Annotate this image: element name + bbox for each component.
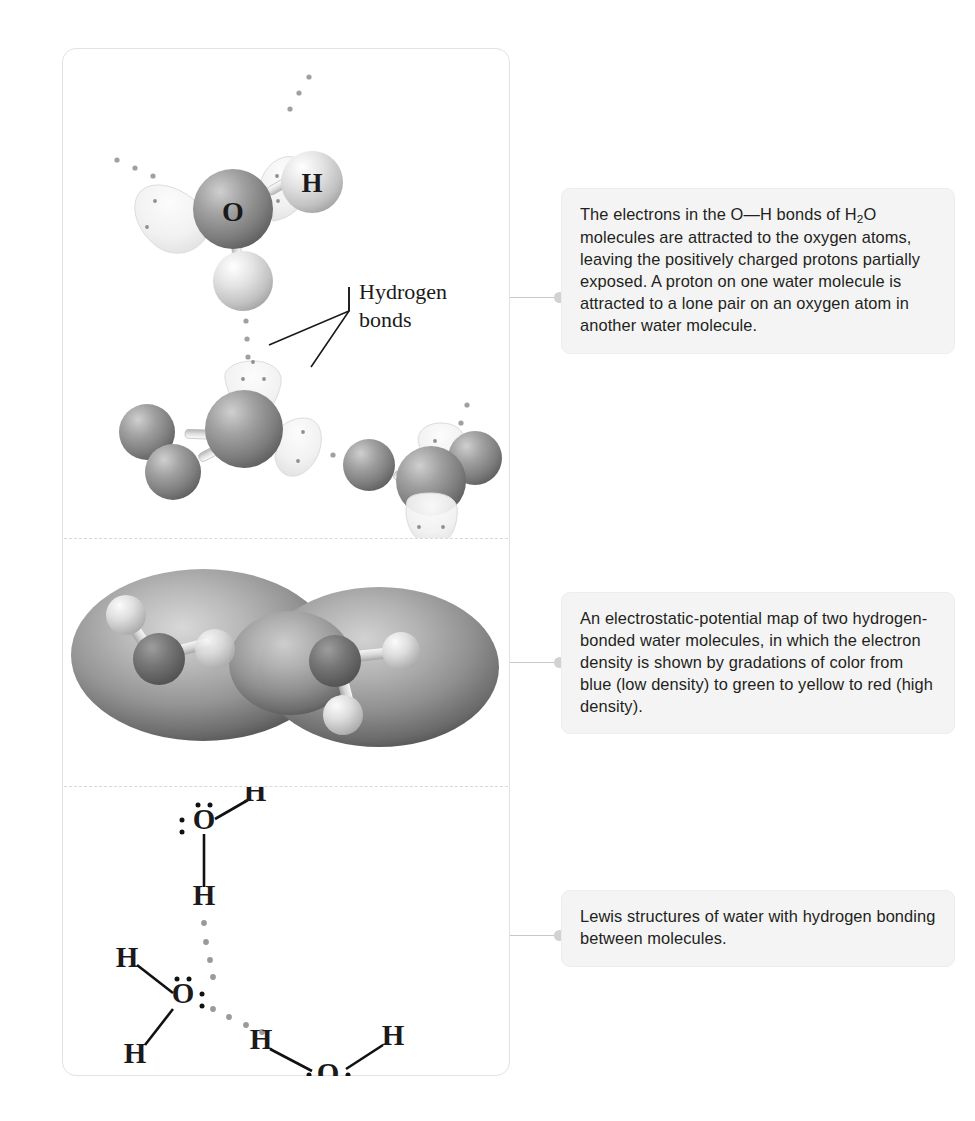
lewis-molecule-middle: O H H	[116, 941, 205, 1069]
lewis-molecule-top: O H H	[180, 787, 267, 911]
hydrogen-bonds-label-line1: Hydrogen	[359, 279, 447, 304]
oxygen-atom-top: O	[193, 169, 273, 249]
electrostatic-potential-map	[63, 539, 509, 786]
lewis-structure-diagram: O H H O H H	[63, 787, 509, 1076]
caption-box-esp-map: An electrostatic-potential map of two hy…	[561, 592, 955, 734]
hbond-dots-vertical	[243, 318, 250, 359]
caption-box-lewis: Lewis structures of water with hydrogen …	[561, 890, 955, 967]
lewis-oxygen-2: O	[172, 977, 195, 1009]
caption-connector-line-2	[510, 662, 556, 663]
hbond-dots-top-right	[287, 74, 311, 111]
caption-3-text: Lewis structures of water with hydrogen …	[580, 906, 937, 950]
oxygen-atom-mid	[205, 390, 283, 468]
figure-panel: H O	[62, 48, 510, 1076]
lewis-hydrogen-3-left: H	[250, 1023, 273, 1055]
lewis-svg: O H H O H H	[63, 787, 509, 1076]
hydrogen-bonds-label-line2: bonds	[359, 307, 412, 332]
ball-and-stick-diagram: H O	[63, 49, 509, 538]
lewis-hydrogen-2-left: H	[116, 941, 139, 973]
lewis-oxygen-1: O	[193, 803, 216, 835]
lewis-hydrogen-1-lower: H	[193, 879, 216, 911]
lewis-hydrogen-1-upper: H	[244, 787, 267, 807]
caption-1-text: The electrons in the O—H bonds of H2O mo…	[580, 204, 937, 337]
hydrogen-atom-top: H	[281, 151, 343, 213]
hydrogen-atom-mid-lower-left	[145, 444, 201, 500]
hydrogen-label: H	[301, 168, 322, 198]
lewis-hydrogen-2-lower: H	[124, 1037, 147, 1069]
caption-2-text: An electrostatic-potential map of two hy…	[580, 608, 937, 717]
caption-connector-line-1	[510, 297, 556, 298]
lewis-oxygen-3: O	[317, 1057, 340, 1076]
esp-map-svg	[63, 539, 509, 786]
caption-connector-line-3	[510, 935, 556, 936]
oxygen-label: O	[222, 196, 244, 227]
caption-1-part1: The electrons in the O—H bonds of H	[580, 205, 857, 223]
lewis-hbond-1	[201, 920, 216, 980]
hydrogen-atom-top-lower	[213, 251, 273, 311]
caption-1-part2: O molecules are attracted to the oxygen …	[580, 205, 920, 334]
hydrogen-bonds-callout: Hydrogen bonds	[269, 279, 447, 367]
ball-stick-svg: H O	[63, 49, 509, 538]
hbond-dots-top-left	[114, 157, 155, 178]
hydrogen-atom-right-left	[343, 439, 395, 491]
lone-pair-lobe-right-down	[406, 493, 457, 538]
caption-box-ball-stick: The electrons in the O—H bonds of H2O mo…	[561, 188, 955, 354]
lewis-hydrogen-3-right: H	[382, 1019, 405, 1051]
lewis-molecule-bottom: H O H	[250, 1019, 405, 1076]
